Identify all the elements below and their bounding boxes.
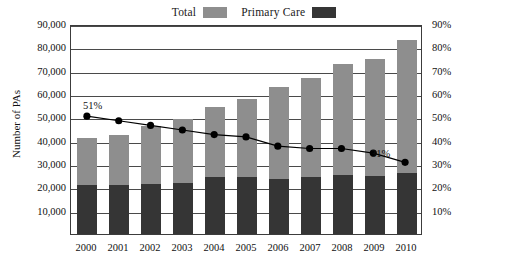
y-axis-right-tick-label: 20%: [432, 183, 484, 193]
y-axis-right-tick-label: 90%: [432, 20, 484, 30]
y-axis-right-tick-label: 40%: [432, 137, 484, 147]
line-point-label: 51%: [83, 100, 102, 111]
line-marker[interactable]: [242, 133, 249, 140]
y-axis-right-tick-label: 30%: [432, 160, 484, 170]
line-point-label: 31%: [371, 148, 390, 159]
line-marker[interactable]: [147, 122, 154, 129]
y-axis-left-tick-label: 80,000: [14, 43, 66, 53]
line-marker[interactable]: [211, 131, 218, 138]
y-axis-left-tick-label: 70,000: [14, 67, 66, 77]
y-axis-left-tick-label: 20,000: [14, 183, 66, 193]
legend-label-primary-care: Primary Care: [241, 6, 305, 18]
line-marker[interactable]: [274, 143, 281, 150]
y-axis-left-tick-label: 30,000: [14, 160, 66, 170]
x-axis-tick-label: 2010: [386, 242, 426, 253]
line-marker[interactable]: [402, 159, 409, 166]
y-axis-right-tick-label: 70%: [432, 67, 484, 77]
legend-item-primary-care: Primary Care: [241, 6, 336, 18]
y-axis-left-tick-label: 50,000: [14, 113, 66, 123]
plot-area: 51%31%: [70, 25, 422, 235]
line-marker[interactable]: [306, 145, 313, 152]
line-series-layer: [71, 26, 421, 234]
line-marker[interactable]: [83, 113, 90, 120]
y-axis-left-tick-label: 40,000: [14, 137, 66, 147]
legend-label-total: Total: [172, 6, 196, 18]
line-marker[interactable]: [338, 145, 345, 152]
legend-item-total: Total: [172, 6, 227, 18]
legend-swatch-total: [203, 7, 227, 18]
legend-swatch-primary-care: [312, 7, 336, 18]
y-axis-left-tick-label: 10,000: [14, 207, 66, 217]
y-axis-right-tick-label: 10%: [432, 207, 484, 217]
line-marker[interactable]: [179, 126, 186, 133]
y-axis-left-tick-label: 60,000: [14, 90, 66, 100]
line-marker[interactable]: [115, 117, 122, 124]
y-axis-left-tick-label: 90,000: [14, 20, 66, 30]
y-axis-right-tick-label: 80%: [432, 43, 484, 53]
chart-container: Total Primary Care Number of PAs Percent…: [0, 0, 508, 262]
y-axis-right-tick-label: 60%: [432, 90, 484, 100]
y-axis-right-tick-label: 50%: [432, 113, 484, 123]
